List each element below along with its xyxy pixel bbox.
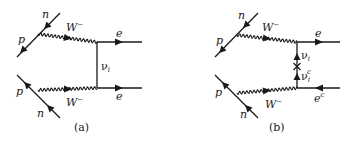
panel-b-lower-n-label: n — [240, 108, 247, 121]
panel-b-lower-lepton-label: ec — [314, 91, 325, 105]
panel-b-upper-w-label: W− — [262, 21, 279, 34]
panel-a-upper-w-arrow — [64, 34, 73, 42]
panel-b-lower-p-label: p — [215, 86, 222, 99]
panel-a-upper-electron-label: e — [116, 27, 123, 40]
panel-a-lower-electron-label: e — [116, 90, 123, 103]
panel-a-neutrino-label: νi — [101, 60, 110, 74]
panel-b: n p W− e νi νic p n W− ec (b) — [215, 9, 340, 134]
panel-b-upper-w-arrow — [263, 35, 272, 43]
panel-a-upper-w-label: W− — [66, 21, 83, 34]
panel-a: n p W− e νi p n W− e (a) — [16, 8, 142, 134]
panel-b-antineutrino-label: νic — [301, 68, 311, 84]
panel-a-lower-w-label: W− — [66, 96, 83, 109]
panel-a-lower-p-label: p — [16, 85, 23, 98]
panel-b-neutrino-upper-arrow — [294, 53, 301, 60]
panel-b-neutrino-lower-arrow — [294, 73, 301, 80]
panel-b-upper-p-label: p — [216, 34, 223, 47]
panel-a-lower-n-label: n — [37, 107, 44, 120]
feynman-diagrams: n p W− e νi p n W− e (a) n p — [0, 0, 355, 142]
panel-a-upper-p-label: p — [18, 33, 25, 46]
panel-a-lower-w-arrow — [64, 86, 72, 93]
panel-b-upper-n-label: n — [238, 9, 245, 22]
panel-b-upper-electron-label: e — [315, 27, 322, 40]
panel-b-caption: (b) — [269, 121, 285, 134]
panel-a-upper-n-label: n — [42, 8, 49, 21]
panel-b-lower-w-label: W− — [265, 98, 282, 111]
panel-b-neutrino-label: νi — [301, 49, 310, 63]
panel-b-lower-w-arrow — [263, 87, 272, 95]
panel-a-caption: (a) — [74, 121, 89, 134]
